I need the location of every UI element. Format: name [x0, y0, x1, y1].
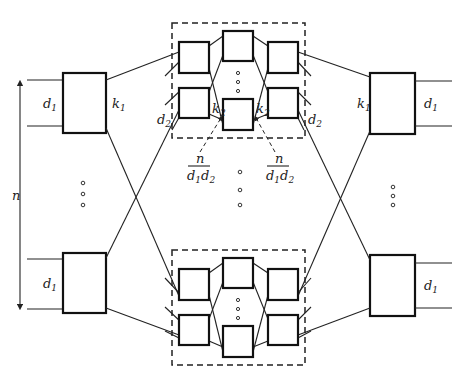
- input-switch-bottom: d1: [27, 253, 106, 313]
- middle-ellipsis: [238, 170, 242, 207]
- fraction-label-right: n d1d2: [266, 151, 294, 185]
- output-switch-top: k1 d1: [357, 73, 452, 134]
- svg-text:k1: k1: [112, 96, 126, 113]
- input-switch-top: d1 k1: [27, 73, 126, 133]
- svg-text:d1d2: d1d2: [266, 168, 294, 185]
- svg-text:n: n: [196, 151, 204, 166]
- svg-text:n: n: [275, 151, 283, 166]
- middle-subnetwork-top: d2 k2 k2 d2: [157, 23, 322, 152]
- svg-text:d2: d2: [308, 112, 322, 129]
- clos-network-diagram: n d1 k1 d1 k1 d1 d1: [0, 0, 471, 382]
- svg-text:d1: d1: [424, 96, 438, 113]
- fraction-label-left: n d1d2: [187, 151, 215, 185]
- svg-text:d1: d1: [43, 276, 57, 293]
- svg-text:d2: d2: [157, 112, 171, 129]
- n-label: n: [12, 188, 20, 203]
- output-ellipsis: [391, 185, 395, 207]
- input-ellipsis: [81, 181, 85, 207]
- output-switch-bottom: d1: [370, 255, 452, 316]
- svg-text:k1: k1: [357, 96, 371, 113]
- inter-stage-links: [106, 52, 370, 335]
- middle-subnetwork-bottom: [165, 250, 311, 365]
- svg-text:d1: d1: [43, 96, 57, 113]
- svg-text:d1d2: d1d2: [187, 168, 215, 185]
- svg-text:d1: d1: [424, 278, 438, 295]
